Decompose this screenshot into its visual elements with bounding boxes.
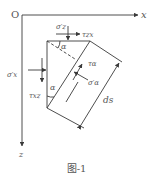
alpha-top-label: α [61,42,67,51]
tau-zx-label: τzx [82,31,94,39]
x-axis-label: x [141,9,147,20]
stress-arrows [28,26,88,82]
upper-extension-line [90,41,122,62]
alpha-arc-top [58,41,60,48]
alpha-left-label: α [50,83,56,92]
ds-dimension-line [81,63,119,125]
stress-labels: σ′z τzx α τα σ′α σ′x τxz α ds [7,23,114,105]
sigma-alpha-arrow [74,72,88,80]
sigma-z-prime-label: σ′z [56,23,66,31]
figure-caption: 图-1 [0,160,153,175]
lower-extension-line [47,108,84,128]
ds-label: ds [103,95,114,105]
sigma-x-prime-label: σ′x [7,71,17,79]
tau-alpha-label: τα [88,60,97,68]
sigma-alpha-prime-label: σ′α [88,79,99,87]
alpha-arc-left [47,96,54,97]
stress-element-diagram: O x z σ′z τzx α τα σ′α σ′x τxz α ds [0,0,153,180]
z-axis-label: z [18,150,24,159]
tau-xz-label: τxz [29,92,41,100]
tau-alpha-stroke-1 [66,82,78,102]
stress-element [47,41,122,128]
coordinate-axes: O x z [11,9,147,159]
origin-label: O [11,9,19,20]
